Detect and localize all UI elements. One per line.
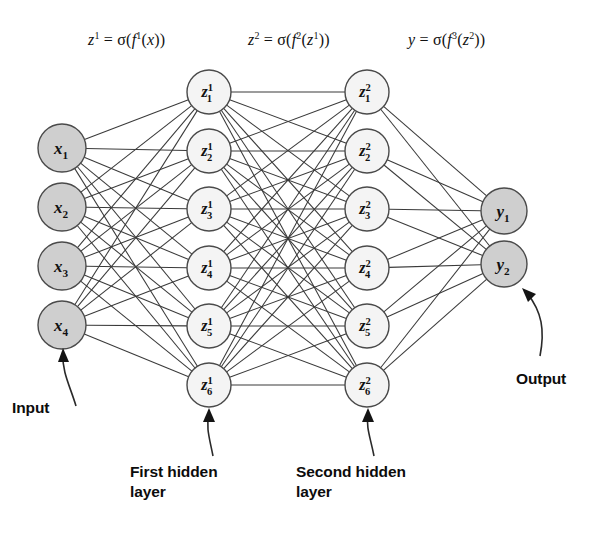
nodes-group: x1x2x3x4z11z12z13z14z15z16z21z22z23z24z2…: [38, 70, 527, 407]
annotation-input-arrowhead-icon: [58, 348, 69, 362]
node-y2[interactable]: y2: [481, 241, 527, 287]
node-z2-4[interactable]: z24: [345, 246, 389, 290]
neural-network-diagram: x1x2x3x4z11z12z13z14z15z16z21z22z23z24z2…: [0, 0, 610, 541]
node-z1-3[interactable]: z13: [187, 187, 231, 231]
annotation-first-hidden-arrowhead-icon: [203, 408, 215, 422]
node-z2-2[interactable]: z22: [345, 129, 389, 173]
formula-output: y = σ(f3(z2)): [408, 30, 485, 49]
node-z1-5[interactable]: z15: [187, 304, 231, 348]
edges-group: [75, 92, 490, 385]
node-z2-6[interactable]: z26: [345, 363, 389, 407]
node-z2-1[interactable]: z21: [345, 70, 389, 114]
node-z1-4[interactable]: z14: [187, 246, 231, 290]
annotation-first-hidden: First hidden layer: [130, 462, 218, 502]
edge-z2-3-to-y2: [387, 217, 482, 255]
node-z2-5[interactable]: z25: [345, 304, 389, 348]
edge-z2-6-to-y2: [383, 279, 486, 370]
annotation-output-arrowhead-icon: [522, 288, 536, 302]
formula-layer1: z1 = σ(f1(x)): [88, 30, 165, 49]
node-z1-2[interactable]: z12: [187, 129, 231, 173]
annotation-output-pointer-line: [527, 293, 542, 356]
node-z2-3[interactable]: z23: [345, 187, 389, 231]
edge-z2-4-to-y1: [387, 220, 482, 260]
edge-x4-to-z1-5: [86, 325, 187, 326]
annotation-second-hidden-arrowhead-icon: [362, 408, 374, 422]
node-x3[interactable]: x3: [38, 242, 86, 290]
edge-z2-3-to-y1: [389, 209, 481, 210]
edge-x3-to-z1-1: [77, 109, 194, 248]
node-y1[interactable]: y1: [481, 188, 527, 234]
annotation-output: Output: [516, 369, 566, 389]
node-z1-6[interactable]: z16: [187, 363, 231, 407]
edge-z2-1-to-y2: [381, 109, 490, 246]
edge-z2-6-to-y1: [381, 229, 490, 368]
node-x2[interactable]: x2: [38, 183, 86, 231]
network-graph-canvas: x1x2x3x4z11z12z13z14z15z16z21z22z23z24z2…: [0, 0, 610, 541]
edge-z2-1-to-y1: [384, 106, 487, 195]
node-x4[interactable]: x4: [38, 301, 86, 349]
annotation-input: Input: [12, 398, 49, 418]
formula-layer2: z2 = σ(f2(z1)): [248, 30, 330, 49]
pointer-arrows-group: [58, 288, 542, 456]
node-x1[interactable]: x1: [38, 124, 86, 172]
annotation-second-hidden: Second hidden layer: [296, 462, 406, 502]
node-z1-1[interactable]: z11: [187, 70, 231, 114]
edge-z2-4-to-y2: [389, 265, 481, 268]
